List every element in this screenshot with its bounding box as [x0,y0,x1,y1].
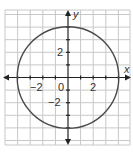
x-tick-neg2: −2 [30,81,43,93]
origin-label: 0 [58,81,64,93]
x-axis-label: x [123,63,130,75]
y-tick-pos2: 2 [57,46,63,58]
axes [3,10,131,145]
y-tick-neg2: −2 [48,96,61,108]
x-tick-pos2: 2 [90,81,96,93]
y-axis-down-arrow-icon [65,139,71,145]
x-axis-left-arrow-icon [3,75,9,81]
coordinate-plane: y x −2 0 2 2 −2 [0,0,133,153]
y-axis-up-arrow-icon [65,10,71,16]
